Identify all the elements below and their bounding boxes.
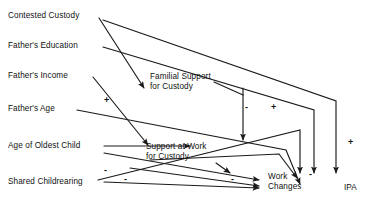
node-familial-support-line2: for Custody [150, 82, 193, 91]
edge-work-changes-to-ipa [216, 163, 230, 173]
node-age-of-oldest-child: Age of Oldest Child [8, 141, 80, 151]
sign-label-1: + [104, 96, 109, 105]
node-work-changes-line2: Changes [268, 182, 301, 191]
sign-label-2: - [245, 103, 248, 112]
node-fathers-income: Father's Income [8, 71, 68, 81]
sign-label-6: - [124, 175, 127, 184]
edge-fathers-education-to-ipa [103, 47, 314, 173]
node-work-changes: Work Changes [268, 172, 301, 192]
sign-label-5: - [104, 166, 107, 175]
node-support-at-work-line1: Support at Work [146, 142, 207, 151]
sign-label-3: + [271, 103, 276, 112]
node-support-at-work-line2: for Custody [146, 152, 189, 161]
node-familial-support-for-custody: Familial Support for Custody [150, 72, 211, 92]
sign-label-7: - [231, 175, 234, 184]
node-contested-custody: Contested Custody [8, 11, 79, 21]
node-familial-support-line1: Familial Support [150, 72, 211, 81]
node-support-at-work-for-custody: Support at Work for Custody [146, 142, 207, 162]
node-fathers-education: Father's Education [8, 41, 78, 51]
sign-label-8: - [309, 170, 312, 179]
node-ipa: IPA [344, 183, 357, 193]
node-shared-childrearing: Shared Childrearing [8, 177, 83, 187]
edge-fathers-income-to-support-at-work [93, 77, 148, 145]
sign-label-4: + [348, 138, 353, 147]
path-diagram: Contested Custody Father's Education Fat… [0, 0, 382, 200]
diagram-canvas [0, 0, 382, 200]
node-work-changes-line1: Work [268, 172, 287, 181]
node-fathers-age: Father's Age [8, 104, 55, 114]
